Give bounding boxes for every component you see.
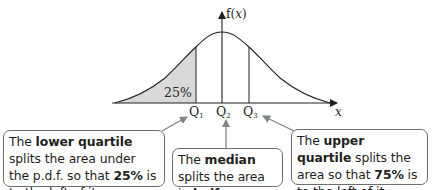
term-median: median: [205, 152, 256, 167]
x-axis-label: x: [335, 105, 342, 119]
q3-label: Q3: [243, 104, 258, 120]
term-lower-quartile: lower quartile: [36, 134, 133, 149]
value-75-percent: 75%: [374, 167, 403, 182]
lower-quartile-arrow: [162, 117, 187, 131]
q2-label: Q2: [216, 104, 231, 120]
q1-label: Q1: [189, 104, 204, 120]
median-callout: The median splits the area in half.: [172, 148, 283, 187]
shaded-percent-label: 25%: [164, 85, 192, 100]
lower-quartile-callout: The lower quartile splits the area under…: [3, 130, 165, 187]
value-25-percent: 25%: [113, 168, 142, 183]
term-half: half: [193, 186, 219, 190]
y-axis-label: f(x): [226, 7, 247, 21]
upper-quartile-arrow: [263, 116, 294, 131]
upper-quartile-callout: The upper quartile splits the area so th…: [291, 129, 428, 185]
